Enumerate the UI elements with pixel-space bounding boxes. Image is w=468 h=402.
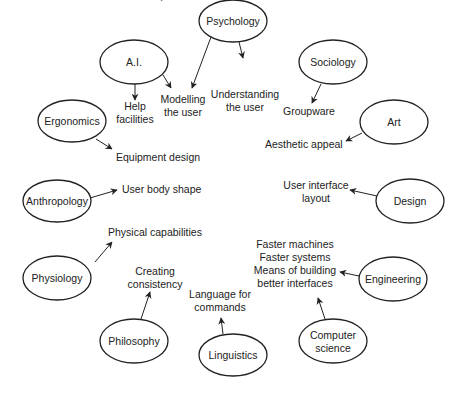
- contribution-label: Creating: [135, 265, 175, 277]
- contribution-aesthetic-appeal: Aesthetic appeal: [265, 138, 343, 150]
- contribution-label: consistency: [128, 278, 184, 290]
- contribution-modelling-the-user: Modellingthe user: [161, 93, 206, 118]
- arrow-ai-to-modelling-the-user: [163, 75, 171, 88]
- discipline-label: Ergonomics: [44, 115, 99, 127]
- arrow-sociology-to-groupware: [312, 84, 321, 103]
- discipline-label: Design: [394, 195, 427, 207]
- discipline-label: Engineering: [365, 273, 421, 285]
- contribution-equipment-design: Equipment design: [116, 151, 200, 163]
- discipline-node-psychology: Psychology: [199, 0, 267, 42]
- contribution-label: Help: [124, 100, 146, 112]
- contribution-label: the user: [226, 101, 264, 113]
- contribution-help-facilities: Helpfacilities: [116, 100, 153, 125]
- arrow-design-to-user-interface-layout: [350, 190, 377, 196]
- contribution-label: Groupware: [283, 105, 335, 117]
- contribution-label: Physical capabilities: [108, 226, 202, 238]
- contribution-label: commands: [194, 301, 245, 313]
- contribution-label: Modelling: [161, 93, 206, 105]
- arrow-physiology-to-physical-capabilities: [95, 242, 112, 262]
- contribution-groupware: Groupware: [283, 105, 335, 117]
- contribution-label: better interfaces: [257, 277, 332, 289]
- contribution-label: User interface: [283, 179, 349, 191]
- discipline-node-anthropology: Anthropology: [23, 180, 91, 222]
- contribution-label: layout: [302, 192, 330, 204]
- contribution-physical-capabilities: Physical capabilities: [108, 226, 202, 238]
- contribution-understanding-the-user: Understandingthe user: [211, 88, 279, 113]
- contribution-label: Aesthetic appeal: [265, 138, 343, 150]
- discipline-label: Psychology: [206, 15, 260, 27]
- arrow-psychology-to-modelling-the-user: [192, 37, 211, 88]
- discipline-node-sociology: Sociology: [299, 40, 367, 84]
- discipline-node-engineering: Engineering: [359, 257, 427, 301]
- discipline-label: Art: [387, 116, 401, 128]
- contribution-labels: HelpfacilitiesModellingthe userUnderstan…: [108, 88, 349, 313]
- contribution-label: User body shape: [122, 183, 202, 195]
- contribution-label: Equipment design: [116, 151, 200, 163]
- discipline-nodes: PsychologyA.I.SociologyErgonomicsArtAnth…: [23, 0, 444, 376]
- discipline-label: Anthropology: [26, 195, 89, 207]
- contribution-label: Understanding: [211, 88, 279, 100]
- arrow-computer-science-to-engineering-outputs: [318, 298, 325, 319]
- contribution-label: facilities: [116, 113, 153, 125]
- discipline-node-design: Design: [376, 179, 444, 223]
- contribution-language-for-commands: Language forcommands: [189, 288, 251, 313]
- discipline-label: science: [315, 342, 351, 354]
- discipline-label: Physiology: [32, 272, 84, 284]
- discipline-node-art: Art: [360, 100, 428, 144]
- arrow-art-to-aesthetic-appeal: [346, 133, 362, 141]
- arrow-psychology-to-understanding-the-user: [239, 42, 243, 58]
- discipline-node-philosophy: Philosophy: [100, 319, 168, 363]
- contribution-label: Faster systems: [259, 251, 330, 263]
- contribution-engineering-outputs: Faster machinesFaster systemsMeans of bu…: [254, 238, 336, 289]
- contribution-label: Faster machines: [256, 238, 334, 250]
- hci-disciplines-diagram: PsychologyA.I.SociologyErgonomicsArtAnth…: [0, 0, 468, 402]
- arrow-philosophy-to-creating-consistency: [141, 292, 150, 319]
- contribution-label: Means of building: [254, 264, 336, 276]
- discipline-node-computer-science: Computerscience: [299, 319, 367, 363]
- discipline-label: Linguistics: [208, 349, 257, 361]
- contribution-user-interface-layout: User interfacelayout: [283, 179, 349, 204]
- arrow-linguistics-to-language-for-commands: [221, 318, 223, 334]
- discipline-node-linguistics: Linguistics: [199, 334, 267, 376]
- cropped-top-text-fragment: .: [0, 0, 468, 4]
- arrow-ergonomics-to-equipment-design: [96, 139, 112, 149]
- contribution-user-body-shape: User body shape: [122, 183, 202, 195]
- discipline-label: A.I.: [126, 56, 142, 68]
- contribution-creating-consistency: Creatingconsistency: [128, 265, 184, 290]
- discipline-label: Philosophy: [108, 335, 160, 347]
- contribution-label: Language for: [189, 288, 251, 300]
- arrow-anthropology-to-user-body-shape: [90, 190, 117, 198]
- discipline-label: Computer: [310, 329, 357, 341]
- arrow-engineering-to-engineering-outputs: [340, 272, 359, 276]
- contribution-label: the user: [164, 106, 202, 118]
- discipline-label: Sociology: [310, 56, 356, 68]
- discipline-node-ai: A.I.: [100, 40, 168, 84]
- discipline-node-ergonomics: Ergonomics: [38, 100, 106, 142]
- discipline-node-physiology: Physiology: [23, 256, 91, 300]
